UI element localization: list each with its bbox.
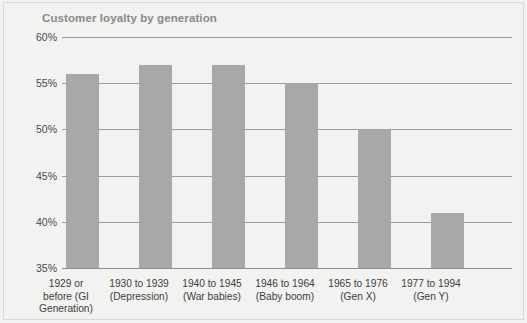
gridline-60: 60% xyxy=(62,37,512,38)
xlabel-gen-y: 1977 to 1994 (Gen Y) xyxy=(388,278,474,303)
gridline-35: 35% xyxy=(62,268,512,269)
ytick-label-40: 40% xyxy=(36,217,57,228)
xlabel-line: (Gen Y) xyxy=(388,291,474,304)
bar-baby-boom xyxy=(285,83,318,268)
bar-gen-x xyxy=(358,129,391,268)
bar-war-babies xyxy=(212,65,245,268)
ytick-label-60: 60% xyxy=(36,32,57,43)
plot-area: 35% 40% 45% 50% 55% 60% xyxy=(62,37,512,268)
chart-screenshot: Customer loyalty by generation 35% 40% 4… xyxy=(0,0,527,323)
ytick-label-50: 50% xyxy=(36,124,57,135)
ytick-label-55: 55% xyxy=(36,78,57,89)
ytick-label-45: 45% xyxy=(36,170,57,181)
xlabel-line: Generation) xyxy=(23,303,109,316)
bar-depression xyxy=(139,65,172,268)
ytick-label-35: 35% xyxy=(36,263,57,274)
bar-gi-generation xyxy=(66,74,99,268)
bar-gen-y xyxy=(431,213,464,268)
xlabel-line: 1977 to 1994 xyxy=(388,278,474,291)
chart-title: Customer loyalty by generation xyxy=(42,12,217,24)
